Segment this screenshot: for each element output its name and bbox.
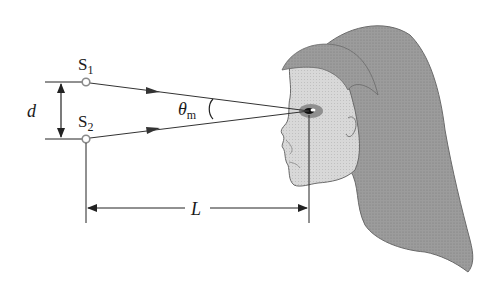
rays [90,83,309,138]
source-s2 [82,135,90,143]
ray-s1-arrow [146,87,160,94]
angle-arc [209,99,213,119]
diagram-canvas: S1 S2 d θm L [0,0,493,288]
label-theta-m: θm [178,99,197,122]
ray-s1 [90,83,309,111]
label-d: d [27,101,37,121]
label-L: L [190,199,201,219]
ray-s2-arrow [146,127,160,134]
separation-indicator [45,82,82,139]
head-illustration [281,26,473,272]
label-s1: S1 [78,55,93,77]
source-s1 [82,78,90,86]
ray-s2 [90,111,309,138]
label-s2: S2 [78,112,93,134]
